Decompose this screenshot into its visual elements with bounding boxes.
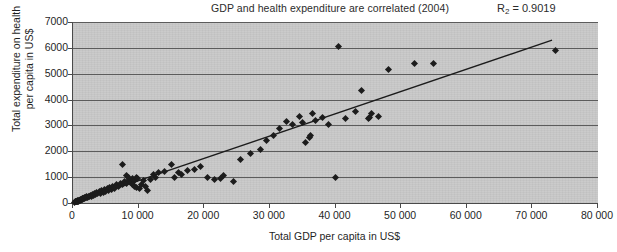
x-axis-tick-mark (597, 204, 598, 208)
x-axis-tick-mark (335, 204, 336, 208)
r2-value: = 0.9019 (509, 2, 555, 14)
x-axis-tick-mark (269, 204, 270, 208)
x-axis-tick-label: 40 000 (305, 209, 365, 221)
x-axis-tick-label: 10 000 (108, 209, 168, 221)
plot-area (72, 22, 598, 204)
y-axis-tick-label: 0 (24, 196, 68, 208)
x-axis-tick-label: 0 (42, 209, 102, 221)
x-axis-tick-label: 20 000 (173, 209, 233, 221)
y-axis-tick-label: 1000 (24, 170, 68, 182)
r2-prefix: R (497, 2, 505, 14)
x-axis-tick-label: 50 000 (370, 209, 430, 221)
x-axis-tick-mark (400, 204, 401, 208)
x-axis-tick-label: 70 000 (501, 209, 561, 221)
x-axis-tick-mark (203, 204, 204, 208)
y-axis-title-line1: Total expenditure on health (10, 0, 23, 154)
r2-annotation: R2 = 0.9019 (497, 2, 556, 14)
y-axis-title: Total expenditure on health per capita i… (10, 0, 36, 154)
chart-figure: GDP and health expenditure are correlate… (0, 0, 617, 252)
x-axis-title: Total GDP per capita in US$ (72, 230, 597, 242)
y-axis-title-line2: per capita in US$ (23, 0, 36, 154)
x-axis-tick-mark (466, 204, 467, 208)
x-axis-tick-label: 30 000 (239, 209, 299, 221)
chart-title: GDP and health expenditure are correlate… (200, 2, 460, 14)
x-axis-tick-mark (531, 204, 532, 208)
x-axis-tick-mark (138, 204, 139, 208)
r2-subscript: 2 (505, 7, 509, 16)
x-axis-tick-label: 60 000 (436, 209, 496, 221)
x-axis-tick-label: 80 000 (567, 209, 617, 221)
